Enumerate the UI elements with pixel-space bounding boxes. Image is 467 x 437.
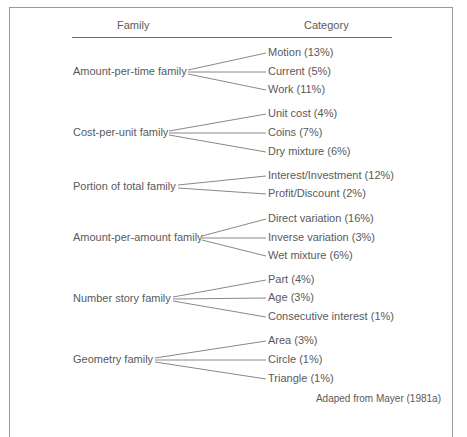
category-item: Dry mixture (6%) xyxy=(268,145,351,158)
family-number-story: Number story family xyxy=(73,292,171,305)
category-item: Part (4%) xyxy=(268,273,314,286)
category-item: Motion (13%) xyxy=(268,46,333,59)
category-item: Wet mixture (6%) xyxy=(268,249,353,262)
category-item: Consecutive interest (1%) xyxy=(268,310,394,323)
category-item: Area (3%) xyxy=(268,334,318,347)
category-item: Current (5%) xyxy=(268,65,331,78)
category-item: Unit cost (4%) xyxy=(268,107,337,120)
category-item: Work (11%) xyxy=(268,83,325,96)
family-geometry: Geometry family xyxy=(73,353,153,366)
family-amount-per-time: Amount-per-time family xyxy=(73,65,187,78)
category-item: Circle (1%) xyxy=(268,353,322,366)
category-item: Triangle (1%) xyxy=(268,372,334,385)
family-cost-per-unit: Cost-per-unit family xyxy=(73,126,168,139)
category-item: Direct variation (16%) xyxy=(268,212,374,225)
category-item: Coins (7%) xyxy=(268,126,322,139)
category-item: Profit/Discount (2%) xyxy=(268,187,366,200)
source-caption: Adaped from Mayer (1981a) xyxy=(316,393,441,404)
category-item: Age (3%) xyxy=(268,291,314,304)
category-item: Inverse variation (3%) xyxy=(268,231,375,244)
family-amount-per-amount: Amount-per-amount family xyxy=(73,231,203,244)
family-portion-of-total: Portion of total family xyxy=(73,180,176,193)
category-item: Interest/Investment (12%) xyxy=(268,169,394,182)
